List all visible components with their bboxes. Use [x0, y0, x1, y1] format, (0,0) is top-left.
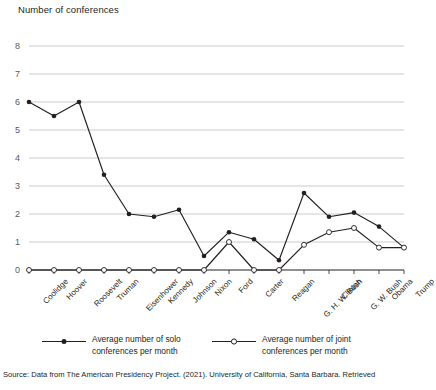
data-point — [302, 242, 307, 247]
data-point — [202, 268, 207, 273]
data-point — [252, 237, 257, 242]
data-point — [177, 208, 182, 213]
data-point — [27, 268, 32, 273]
data-point — [77, 268, 82, 273]
y-axis-tick-label: 0 — [6, 265, 20, 275]
x-axis-ticks — [29, 270, 404, 274]
data-point — [52, 268, 57, 273]
data-point — [52, 114, 57, 119]
data-point — [127, 268, 132, 273]
y-axis-tick-label: 6 — [6, 97, 20, 107]
data-point — [102, 173, 107, 178]
data-point — [227, 230, 232, 235]
y-axis-tick-label: 8 — [6, 41, 20, 51]
data-point — [252, 268, 257, 273]
data-point — [277, 258, 282, 263]
legend-marker-joint-icon — [212, 337, 256, 346]
legend-item-solo: Average number of solo conferences per m… — [92, 334, 181, 357]
legend-marker-solo-icon — [42, 337, 86, 346]
y-axis-tick-label: 2 — [6, 209, 20, 219]
y-axis-tick-label: 1 — [6, 237, 20, 247]
legend-label-solo-line1: Average number of solo — [92, 334, 181, 346]
data-point — [402, 245, 407, 250]
data-point — [327, 230, 332, 235]
series-line-open — [29, 228, 404, 270]
data-point — [102, 268, 107, 273]
data-point — [352, 226, 357, 231]
data-point — [27, 100, 32, 105]
gridlines — [29, 46, 404, 270]
source-note: Source: Data from The American Presidenc… — [3, 370, 412, 380]
data-point — [152, 268, 157, 273]
data-point — [152, 215, 157, 220]
chart-legend: Average number of solo conferences per m… — [0, 332, 413, 366]
data-point — [177, 268, 182, 273]
legend-item-joint: Average number of joint conferences per … — [262, 334, 351, 357]
data-point — [377, 224, 382, 229]
legend-label-joint-line1: Average number of joint — [262, 334, 351, 346]
data-point — [127, 212, 132, 217]
y-axis-tick-label: 5 — [6, 125, 20, 135]
data-point — [77, 100, 82, 105]
data-point — [327, 215, 332, 220]
data-point — [277, 268, 282, 273]
y-axis-tick-label: 7 — [6, 69, 20, 79]
x-axis-tick-label: Trump — [414, 277, 436, 300]
data-point — [302, 191, 307, 196]
data-point — [377, 245, 382, 250]
y-axis-tick-label: 3 — [6, 181, 20, 191]
data-point — [227, 240, 232, 245]
legend-label-joint-line2: conferences per month — [262, 346, 351, 358]
data-point — [202, 254, 207, 259]
legend-label-solo-line2: conferences per month — [92, 346, 181, 358]
y-axis-tick-label: 4 — [6, 153, 20, 163]
series-line-filled — [29, 102, 404, 260]
data-point — [352, 210, 357, 215]
